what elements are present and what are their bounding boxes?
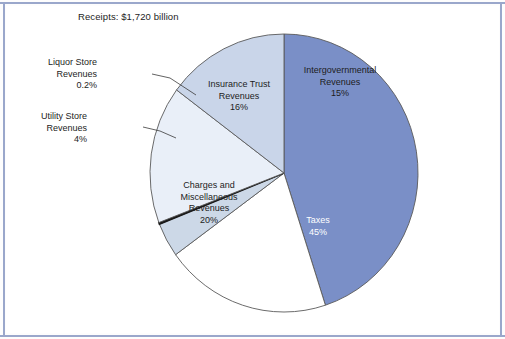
slice-label-liquor-store: Liquor Store Revenues 0.2% xyxy=(48,57,97,92)
pie-slices-group xyxy=(150,34,418,312)
slice-label-insurance-name-1: Insurance Trust xyxy=(208,79,270,91)
slice-label-intergov-name-1: Intergovernmental xyxy=(304,65,377,77)
slice-label-liquor-name-2: Revenues xyxy=(48,69,97,81)
slice-label-insurance-value: 16% xyxy=(208,102,270,114)
pie-graphic xyxy=(0,0,505,339)
slice-label-charges-name-3: Revenues xyxy=(180,203,237,215)
slice-label-intergov-name-2: Revenues xyxy=(304,77,377,89)
slice-label-insurance-name-2: Revenues xyxy=(208,91,270,103)
slice-label-taxes-name: Taxes xyxy=(306,215,330,227)
slice-label-liquor-value: 0.2% xyxy=(48,80,97,92)
slice-label-intergovernmental: Intergovernmental Revenues 15% xyxy=(304,65,377,100)
slice-label-charges-value: 20% xyxy=(180,215,237,227)
slice-label-utility-value: 4% xyxy=(41,134,87,146)
slice-label-intergov-value: 15% xyxy=(304,88,377,100)
slice-label-charges: Charges and Miscellaneous Revenues 20% xyxy=(180,180,237,226)
slice-label-insurance-trust: Insurance Trust Revenues 16% xyxy=(208,79,270,114)
slice-label-utility-store: Utility Store Revenues 4% xyxy=(41,111,87,146)
slice-label-liquor-name-1: Liquor Store xyxy=(48,57,97,69)
slice-label-charges-name-2: Miscellaneous xyxy=(180,192,237,204)
slice-label-utility-name-1: Utility Store xyxy=(41,111,87,123)
slice-label-utility-name-2: Revenues xyxy=(41,123,87,135)
slice-label-taxes-value: 45% xyxy=(306,227,330,239)
slice-label-taxes: Taxes 45% xyxy=(306,215,330,238)
pie-chart-figure: Receipts: $1,720 billion Taxes 45% Charg… xyxy=(0,0,505,339)
slice-label-charges-name-1: Charges and xyxy=(180,180,237,192)
